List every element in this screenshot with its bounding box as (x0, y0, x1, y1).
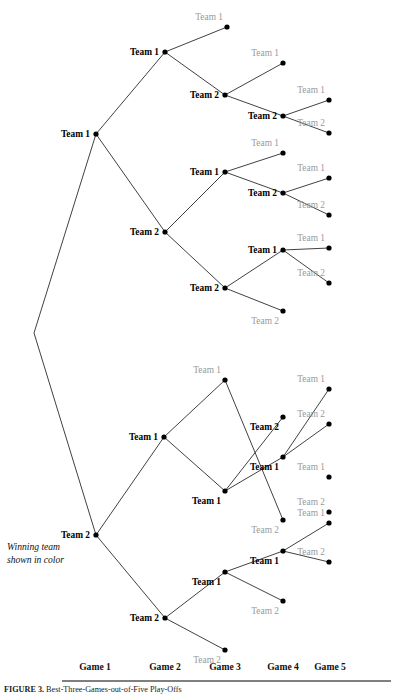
node-dot (326, 245, 331, 250)
node-dot (93, 532, 98, 537)
node-label: Team 1 (251, 138, 279, 148)
tree-node[interactable]: Team 1 (297, 85, 331, 103)
tree-node[interactable]: Team 1 (195, 12, 229, 30)
tree-node[interactable]: Team 1 (192, 569, 228, 587)
node-label: Team 2 (297, 497, 325, 507)
node-dot (280, 548, 285, 553)
tree-node[interactable]: Team 2 (248, 188, 286, 198)
tree-edge (165, 232, 225, 288)
tree-node[interactable]: Team 2 (297, 547, 331, 565)
node-dot (222, 569, 227, 574)
node-dot (326, 559, 331, 564)
legend-note-line1: Winning team (7, 541, 103, 554)
tree-node[interactable]: Team 2 (248, 111, 286, 121)
tree-node[interactable]: Team 1 (297, 374, 331, 392)
tree-edge (283, 424, 329, 457)
figure-caption: FIGURE 3. Best-Three-Games-out-of-Five P… (4, 685, 392, 694)
tree-edge (34, 134, 96, 333)
node-dot (162, 229, 167, 234)
node-label: Team 2 (61, 530, 90, 540)
node-dot (162, 49, 167, 54)
tree-node[interactable]: Team 2 (190, 90, 228, 100)
node-label: Team 1 (250, 462, 279, 472)
tree-edge (283, 250, 329, 283)
tree-node[interactable]: Team 2 (297, 268, 331, 286)
tree-node[interactable]: Team 1 (251, 138, 285, 156)
node-dot (222, 647, 227, 652)
node-dot (280, 113, 285, 118)
node-label: Team 1 (250, 556, 279, 566)
node-label: Team 1 (248, 245, 277, 255)
node-label: Team 1 (297, 374, 325, 384)
node-label: Team 2 (297, 118, 325, 128)
node-dot (326, 474, 331, 479)
node-dot (280, 190, 285, 195)
node-label: Team 1 (192, 496, 221, 506)
tree-node[interactable]: Team 2 (250, 414, 286, 432)
tree-edge (96, 437, 164, 535)
axis-round-label: Game 3 (209, 661, 241, 672)
node-label: Team 2 (251, 525, 279, 535)
node-dot (280, 414, 285, 419)
tree-edge (164, 437, 225, 491)
tree-node[interactable]: Team 1 (192, 488, 228, 506)
node-label: Team 2 (130, 613, 159, 623)
node-dot (326, 130, 331, 135)
node-dot (280, 598, 285, 603)
tree-node[interactable]: Team 1 (251, 48, 285, 66)
caption-label: FIGURE 3. (4, 685, 44, 694)
tree-node[interactable]: Team 1 (297, 462, 331, 480)
node-label: Team 2 (297, 268, 325, 278)
tree-node[interactable]: Team 1 (250, 548, 286, 566)
tree-edge (165, 172, 225, 232)
tree-edge (96, 535, 165, 618)
node-label: Team 1 (297, 85, 325, 95)
tree-node[interactable]: Team 1 (248, 245, 286, 255)
tree-node[interactable]: Team 1 (193, 365, 227, 383)
tree-node[interactable]: Team 2 (297, 200, 331, 218)
node-dot (280, 454, 285, 459)
tree-node[interactable]: Team 2 (297, 409, 331, 427)
node-label: Team 2 (248, 111, 277, 121)
node-label: Team 1 (129, 432, 158, 442)
node-dot (326, 97, 331, 102)
node-label: Team 1 (193, 365, 221, 375)
axis-round-label: Game 4 (267, 661, 299, 672)
tree-edge (225, 153, 283, 172)
node-label: Team 2 (251, 606, 279, 616)
tree-node[interactable]: Team 1 (297, 508, 331, 526)
tree-node[interactable]: Team 2 (251, 598, 285, 616)
node-dot (280, 60, 285, 65)
node-label: Team 2 (190, 283, 219, 293)
tree-node[interactable]: Team 2 (297, 118, 331, 136)
round-axis: Game 1Game 2Game 3Game 4Game 5 (62, 661, 391, 681)
tree-node[interactable]: Team 2 (251, 308, 285, 326)
tree-node[interactable]: Team 1 (61, 129, 99, 139)
node-dot (326, 509, 331, 514)
node-dot (326, 386, 331, 391)
tree-edge (283, 178, 329, 193)
node-dot (326, 520, 331, 525)
node-dot (222, 377, 227, 382)
tree-node[interactable]: Team 1 (250, 454, 286, 472)
node-dot (222, 92, 227, 97)
node-label: Team 1 (297, 508, 325, 518)
node-label: Team 2 (248, 188, 277, 198)
tree-node[interactable]: Team 2 (251, 517, 285, 535)
node-label: Team 2 (297, 409, 325, 419)
node-dot (93, 131, 98, 136)
tree-node[interactable]: Team 2 (130, 227, 168, 237)
legend-note-line2: shown in color (7, 554, 103, 567)
legend-note: Winning team shown in color (7, 541, 103, 566)
tree-node[interactable]: Team 2 (61, 530, 99, 540)
node-dot (222, 285, 227, 290)
node-dot (280, 150, 285, 155)
tree-node[interactable]: Team 1 (190, 167, 228, 177)
node-label: Team 1 (297, 462, 325, 472)
node-label: Team 1 (192, 577, 221, 587)
tree-node[interactable]: Team 1 (297, 163, 331, 181)
tree-edge (165, 618, 225, 650)
node-dot (280, 517, 285, 522)
node-label: Team 2 (297, 200, 325, 210)
tree-node[interactable]: Team 1 (297, 233, 331, 251)
